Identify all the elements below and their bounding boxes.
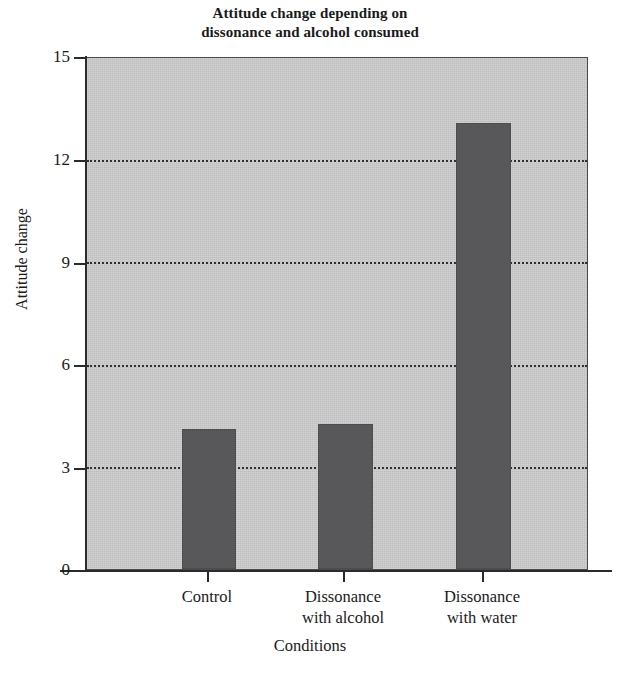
bar-dissonance-with-water[interactable] <box>456 123 511 569</box>
gridline-6 <box>87 365 587 367</box>
x-tick-label-dissonance-with-water-line-2: with water <box>397 607 567 628</box>
x-tick-mark-dissonance-with-alcohol <box>343 571 345 582</box>
plot-area <box>86 57 588 570</box>
y-tick-mark-15 <box>74 57 86 59</box>
y-axis-title: Attitude change <box>13 179 31 339</box>
bar-control[interactable] <box>182 429 236 569</box>
y-axis-line <box>85 56 87 571</box>
x-tick-label-dissonance-with-alcohol-line-1: Dissonance <box>305 587 381 606</box>
x-tick-label-dissonance-with-water: Dissonance with water <box>397 586 567 629</box>
x-tick-mark-control <box>207 571 209 582</box>
chart-title-line-1: Attitude change depending on <box>0 4 620 23</box>
chart-title-line-2: dissonance and alcohol consumed <box>0 23 620 42</box>
bar-dissonance-with-alcohol[interactable] <box>318 424 373 569</box>
y-tick-mark-0 <box>74 570 86 572</box>
y-tick-mark-6 <box>74 365 86 367</box>
y-tick-label-12: 12 <box>42 151 70 168</box>
y-tick-label-9: 9 <box>42 254 70 271</box>
gridline-9 <box>87 262 587 264</box>
x-tick-label-dissonance-with-water-line-1: Dissonance <box>444 587 520 606</box>
y-tick-label-6: 6 <box>42 356 70 373</box>
chart-title: Attitude change depending on dissonance … <box>0 4 620 42</box>
x-tick-label-control-line-1: Control <box>182 587 232 606</box>
y-tick-label-15: 15 <box>42 48 70 65</box>
y-tick-label-3: 3 <box>42 459 70 476</box>
y-tick-mark-12 <box>74 160 86 162</box>
y-tick-mark-9 <box>74 263 86 265</box>
y-tick-label-0: 0 <box>42 561 70 578</box>
x-axis-title: Conditions <box>0 636 620 656</box>
gridline-12 <box>87 160 587 162</box>
x-axis-line <box>60 570 612 572</box>
y-tick-mark-3 <box>74 468 86 470</box>
x-tick-mark-dissonance-with-water <box>482 571 484 582</box>
